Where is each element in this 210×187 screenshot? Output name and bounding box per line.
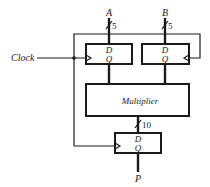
output-p-label: P (134, 173, 141, 184)
input-a-width-label: 5 (112, 21, 117, 31)
register-p-q-label: Q (135, 143, 142, 153)
input-b-label: B (162, 7, 168, 18)
input-a-label: A (105, 7, 113, 18)
clock-label: Clock (11, 52, 35, 63)
clock-junction-dot (72, 56, 76, 60)
multiplier-label: Multiplier (121, 96, 159, 106)
register-a-q-label: Q (106, 54, 113, 64)
input-b-width-label: 5 (168, 21, 173, 31)
product-bus-width-label: 10 (142, 120, 152, 130)
multiplier-circuit-diagram: A 5 B 5 Clock D Q D Q Multiplier 10 D Q … (0, 0, 210, 187)
register-b-q-label: Q (162, 54, 169, 64)
